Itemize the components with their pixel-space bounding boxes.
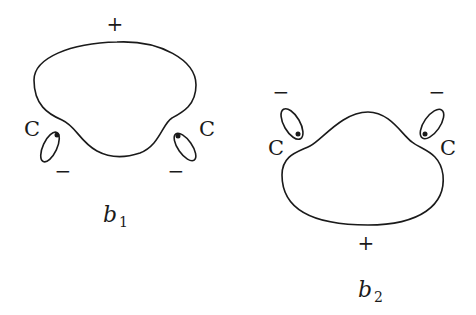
b1-main-lobe [34, 42, 196, 157]
b2-plus-sign: + [358, 231, 375, 255]
b1-label-sub: 1 [119, 214, 128, 230]
b2-label: b2 [358, 277, 383, 305]
b2-carbon-left: C [268, 136, 284, 160]
b1-right-nucleus [176, 134, 181, 139]
b1-label-main: b [103, 202, 117, 227]
b2-right-nucleus [423, 132, 428, 137]
b2-label-main: b [358, 277, 372, 302]
b2-minus-left: − [273, 80, 290, 104]
b2-minus-right: − [429, 80, 446, 104]
b2-main-lobe [282, 112, 443, 225]
b1-carbon-left: C [24, 117, 40, 141]
b1-carbon-right: C [199, 117, 215, 141]
b1-minus-left: − [55, 159, 72, 183]
b1-minus-right: − [168, 159, 185, 183]
orbital-b2 [277, 105, 449, 225]
b2-label-sub: 2 [374, 289, 383, 305]
b1-label: b1 [103, 202, 128, 230]
orbital-b1 [34, 42, 200, 165]
b2-left-nucleus [296, 132, 301, 137]
orbital-diagram: + C C − − b1 − − C C + b2 [0, 0, 476, 315]
b1-left-nucleus [55, 133, 60, 138]
b1-plus-sign: + [107, 12, 124, 36]
b2-carbon-right: C [440, 136, 456, 160]
